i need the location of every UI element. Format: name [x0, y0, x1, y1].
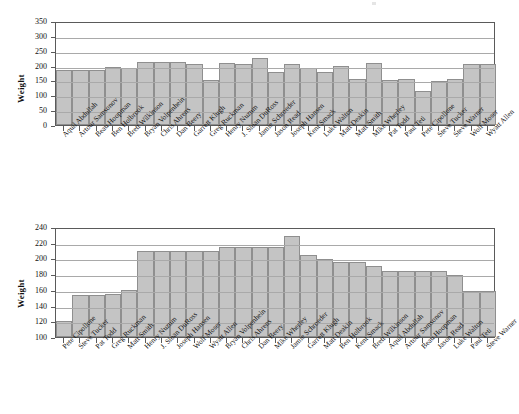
gridline	[56, 276, 494, 277]
y-tick-label: 240	[15, 224, 47, 232]
y-tick-label: 200	[15, 63, 47, 71]
y-tick-label: 120	[15, 318, 47, 326]
y-tick-label: 350	[15, 18, 47, 26]
y-tick-mark	[51, 52, 55, 53]
y-tick-mark	[51, 291, 55, 292]
scan-artifact	[372, 2, 376, 5]
y-tick-label: 200	[15, 255, 47, 263]
y-tick-mark	[51, 67, 55, 68]
y-tick-label: 50	[15, 107, 47, 115]
gridline	[56, 38, 494, 39]
y-tick-mark	[51, 338, 55, 339]
y-tick-label: 150	[15, 77, 47, 85]
gridline	[56, 68, 494, 69]
gridline	[56, 308, 494, 309]
y-tick-mark	[51, 111, 55, 112]
y-tick-label: 300	[15, 33, 47, 41]
y-tick-mark	[51, 228, 55, 229]
y-tick-mark	[51, 22, 55, 23]
y-tick-label: 140	[15, 303, 47, 311]
gridline	[56, 245, 494, 246]
y-tick-label: 220	[15, 240, 47, 248]
y-tick-label: 160	[15, 287, 47, 295]
y-tick-mark	[51, 275, 55, 276]
y-tick-mark	[51, 96, 55, 97]
y-tick-label: 180	[15, 271, 47, 279]
chart-weight-sorted: Weight 100120140160180200220240 Pete Cip…	[0, 210, 509, 414]
y-tick-mark	[51, 244, 55, 245]
y-tick-mark	[51, 37, 55, 38]
gridline	[56, 260, 494, 261]
y-tick-label: 100	[15, 334, 47, 342]
y-tick-label: 0	[15, 122, 47, 130]
y-tick-mark	[51, 259, 55, 260]
y-tick-label: 100	[15, 92, 47, 100]
gridline	[56, 292, 494, 293]
y-tick-mark	[51, 322, 55, 323]
chart-weight-by-name: Weight 050100150200250300350 Aquil Abdul…	[0, 0, 509, 210]
gridline	[56, 53, 494, 54]
y-tick-mark	[51, 307, 55, 308]
y-tick-label: 250	[15, 48, 47, 56]
y-tick-mark	[51, 126, 55, 127]
y-tick-mark	[51, 81, 55, 82]
gridline	[56, 82, 494, 83]
